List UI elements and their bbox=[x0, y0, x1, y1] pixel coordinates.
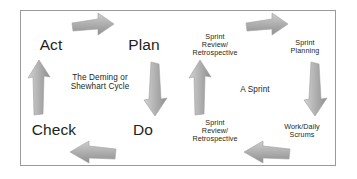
label-plan: Plan bbox=[118, 36, 170, 53]
arrow-plan-to-do-icon bbox=[142, 61, 168, 117]
figure-frame: Act Plan Check Do The Deming or Shewhart… bbox=[20, 10, 336, 166]
label-work-daily-scrums: Work/Daily Scrums bbox=[269, 123, 335, 139]
label-act: Act bbox=[25, 36, 77, 53]
arrow-act-to-plan-icon bbox=[71, 12, 115, 38]
label-a-sprint-caption: A Sprint bbox=[224, 85, 286, 94]
label-do: Do bbox=[121, 121, 165, 138]
arrow-check-to-act-icon bbox=[26, 59, 52, 117]
arrow-planning-to-work-icon bbox=[302, 61, 328, 117]
arrow-work-to-review-icon bbox=[243, 140, 291, 166]
label-deming-cycle-caption: The Deming or Shewhart Cycle bbox=[56, 73, 144, 91]
label-sprint-review-retrospective-top: Sprint Review/ Retrospective bbox=[176, 33, 254, 57]
arrow-review-to-planning-icon bbox=[245, 12, 289, 38]
arrow-review-to-sprint-icon bbox=[187, 59, 213, 117]
arrow-do-to-check-icon bbox=[69, 140, 117, 166]
label-check: Check bbox=[21, 121, 87, 138]
figure-canvas: Act Plan Check Do The Deming or Shewhart… bbox=[0, 0, 357, 179]
label-sprint-planning: Sprint Planning bbox=[275, 39, 335, 55]
